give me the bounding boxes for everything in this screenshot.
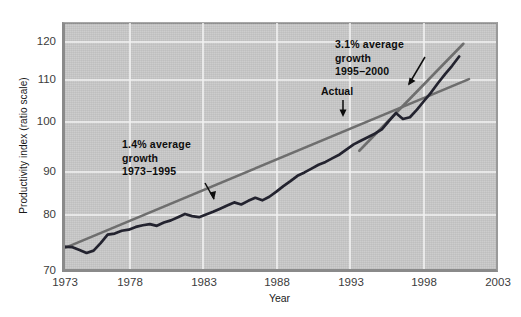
annotation-line-3: 1995–2000	[335, 65, 404, 79]
x-axis-title-text: Year	[269, 292, 290, 304]
annotation-line-1: 3.1% average	[335, 38, 404, 52]
annotation-line-2: growth	[122, 152, 191, 166]
x-axis-title: Year	[0, 292, 521, 304]
annotation-line-3: 1973–1995	[122, 165, 191, 179]
x-tick-1993: 1993	[321, 276, 381, 288]
annotation-actual: Actual	[321, 85, 353, 97]
chart-figure: Productivity index (ratio scale) 120 110…	[0, 0, 521, 317]
x-tick-2003: 2003	[468, 276, 521, 288]
annotation-growth-1995-2000: 3.1% average growth 1995–2000	[335, 38, 404, 79]
annotation-growth-1973-1995: 1.4% average growth 1973–1995	[122, 138, 191, 179]
annotation-line-2: growth	[335, 52, 404, 66]
x-tick-1988: 1988	[247, 276, 307, 288]
x-tick-1998: 1998	[394, 276, 454, 288]
x-tick-1973: 1973	[35, 276, 95, 288]
x-tick-1983: 1983	[174, 276, 234, 288]
annotation-line-1: 1.4% average	[122, 138, 191, 152]
x-tick-1978: 1978	[100, 276, 160, 288]
chart-canvas	[0, 0, 521, 317]
